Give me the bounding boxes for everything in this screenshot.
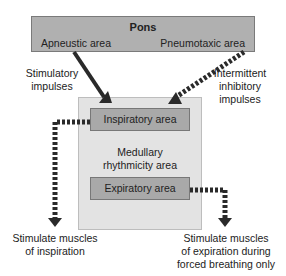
- stimulatory-impulses-label: Stimulatory impulses: [22, 67, 82, 93]
- expiration-muscles-label: Stimulate muscles of expiration during f…: [170, 232, 282, 271]
- inspiration-muscles-label: Stimulate muscles of inspiration: [5, 232, 105, 258]
- inspiration-output-arrow-icon: [48, 122, 90, 227]
- intermittent-inhibitory-label: Intermittent inhibitory impulses: [200, 67, 280, 106]
- expiration-output-arrow-icon: [190, 190, 232, 227]
